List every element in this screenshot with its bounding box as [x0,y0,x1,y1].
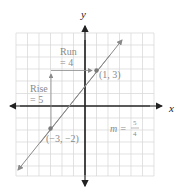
x-axis-label: x [168,102,174,114]
slope-denominator: 4 [133,130,137,138]
point-label-1-3: (1, 3) [99,69,121,81]
rise-label-line2: = 5 [30,94,43,105]
y-axis-label: y [80,8,86,20]
run-label-line2: = 4 [60,57,73,68]
graph-svg: y x Run = 4 Rise = 5 (1, 3) (−3, −2) m =… [0,0,178,193]
point-neg3-neg2 [48,126,52,130]
slope-prefix: m = [110,123,126,134]
run-label-line1: Run [60,46,77,57]
slope-numerator: 5 [133,119,137,127]
rise-label-line1: Rise [30,83,48,94]
point-label-neg3-neg2: (−3, −2) [46,133,79,145]
coordinate-plane: y x Run = 4 Rise = 5 (1, 3) (−3, −2) m =… [0,0,178,193]
